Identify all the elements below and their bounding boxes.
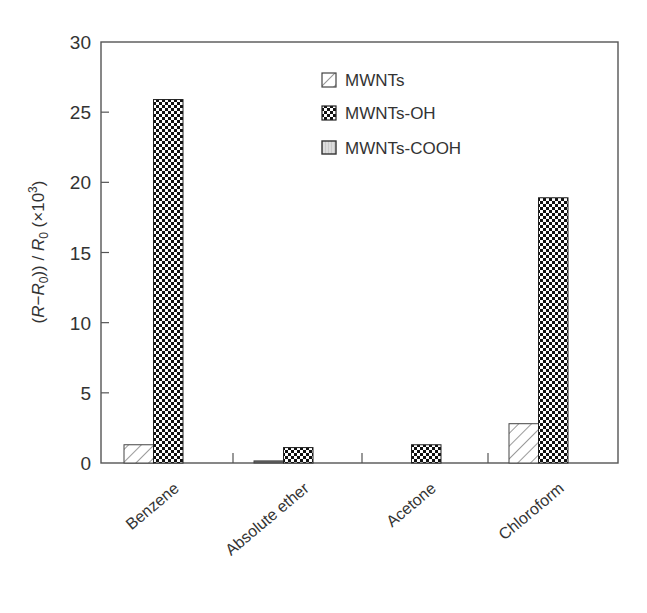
x-category-label: Benzene [123,479,182,533]
x-category-label: Chloroform [495,479,567,543]
legend-item-mwnts-cooh: MWNTs-COOH [322,139,461,158]
bar-mwnts-benzene [124,445,154,463]
y-axis: 051015202530 [70,32,109,474]
x-category-label: Absolute ether [222,479,312,559]
y-tick-label: 5 [80,383,91,404]
y-tick-label: 20 [70,172,91,193]
bar-mwnts-oh-absolute-ether [284,448,314,463]
y-axis-label: (R−R0)) / R0 (×103) [26,181,51,324]
legend-item-mwnts-oh: MWNTs-OH [322,104,436,123]
legend-label: MWNTs-COOH [345,139,461,158]
bar-mwnts-oh-acetone [412,445,442,463]
legend-swatch-hatch [322,73,336,87]
legend: MWNTs MWNTs-OH MWNTs-COOH [322,71,461,158]
legend-label: MWNTs [345,71,404,90]
bar-chart: 051015202530 BenzeneAbsolute etherAceton… [0,0,647,613]
y-tick-label: 0 [80,453,91,474]
legend-label: MWNTs-OH [345,104,436,123]
legend-swatch-cooh [322,141,336,154]
bar-mwnts-chloroform [509,424,539,463]
legend-item-mwnts: MWNTs [322,71,404,90]
y-tick-label: 10 [70,313,91,334]
y-tick-label: 30 [70,32,91,53]
x-category-label: Acetone [383,479,439,530]
bar-mwnts-oh-chloroform [539,198,569,463]
bar-mwnts-absolute-ether [254,461,284,463]
x-axis-category-labels: BenzeneAbsolute etherAcetoneChloroform [123,479,567,559]
y-tick-label: 15 [70,243,91,264]
y-tick-label: 25 [70,102,91,123]
legend-swatch-checker [322,106,336,120]
bar-mwnts-oh-benzene [154,100,184,463]
